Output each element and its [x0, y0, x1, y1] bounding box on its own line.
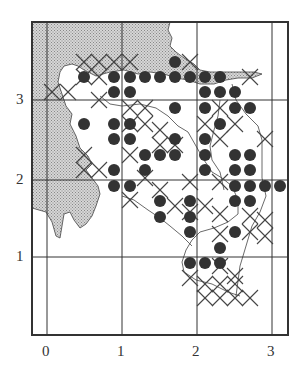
- dot-marker: [154, 195, 166, 207]
- dot-marker: [244, 149, 256, 161]
- dot-marker: [199, 149, 211, 161]
- dot-marker: [108, 71, 120, 83]
- dot-marker: [229, 226, 241, 238]
- dot-marker: [244, 180, 256, 192]
- dot-marker: [108, 133, 120, 145]
- shaded-region: [32, 22, 262, 238]
- dot-marker: [169, 56, 181, 68]
- dot-marker: [229, 86, 241, 98]
- dot-marker: [184, 257, 196, 269]
- dot-marker: [139, 149, 151, 161]
- dot-marker: [169, 149, 181, 161]
- dot-marker: [124, 133, 136, 145]
- river-central: [210, 100, 224, 190]
- dot-marker: [108, 180, 120, 192]
- dot-marker: [184, 211, 196, 223]
- dot-marker: [214, 71, 226, 83]
- dot-marker: [124, 180, 136, 192]
- x-tick-3: 3: [267, 343, 275, 360]
- dot-marker: [124, 118, 136, 130]
- dot-marker: [154, 211, 166, 223]
- dot-marker: [154, 71, 166, 83]
- dot-marker: [199, 257, 211, 269]
- dot-marker: [199, 133, 211, 145]
- x-tick-1: 1: [117, 343, 125, 360]
- dot-marker: [214, 86, 226, 98]
- dot-marker: [154, 149, 166, 161]
- dot-marker: [169, 102, 181, 114]
- dot-marker: [124, 71, 136, 83]
- x-tick-2: 2: [192, 343, 200, 360]
- dot-marker: [78, 118, 90, 130]
- dot-marker: [78, 71, 90, 83]
- dot-marker: [169, 71, 181, 83]
- dot-marker: [199, 71, 211, 83]
- dot-marker: [244, 102, 256, 114]
- y-tick-1: 1: [16, 248, 24, 265]
- dot-marker: [274, 180, 286, 192]
- dot-marker: [229, 164, 241, 176]
- dot-marker: [169, 133, 181, 145]
- dot-marker: [199, 164, 211, 176]
- dot-marker: [199, 86, 211, 98]
- dot-marker: [199, 102, 211, 114]
- y-tick-2: 2: [16, 171, 24, 188]
- dot-marker: [214, 257, 226, 269]
- dot-marker: [108, 164, 120, 176]
- dot-marker: [139, 164, 151, 176]
- dot-marker: [229, 149, 241, 161]
- dot-marker: [244, 164, 256, 176]
- dot-marker: [108, 86, 120, 98]
- dot-marker: [244, 195, 256, 207]
- y-tick-3: 3: [16, 91, 24, 108]
- dot-marker: [139, 71, 151, 83]
- dot-marker: [184, 71, 196, 83]
- dot-marker: [229, 180, 241, 192]
- dot-marker: [108, 118, 120, 130]
- dot-marker: [214, 242, 226, 254]
- distribution-map: [0, 0, 302, 373]
- dot-marker: [229, 195, 241, 207]
- dot-marker: [184, 226, 196, 238]
- dot-marker: [214, 118, 226, 130]
- dot-marker: [184, 195, 196, 207]
- dot-marker: [124, 86, 136, 98]
- x-tick-0: 0: [42, 343, 50, 360]
- dot-marker: [229, 102, 241, 114]
- dot-marker: [259, 180, 271, 192]
